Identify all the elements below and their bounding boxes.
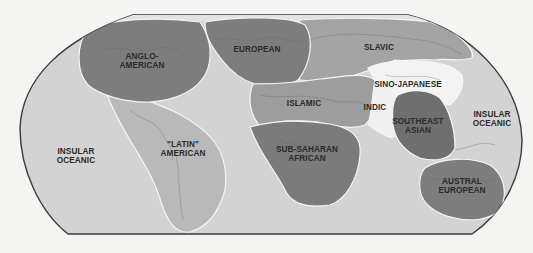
label-insular-oceanic-east: INSULAR xyxy=(473,110,510,119)
label-insular-oceanic-west: INSULAR xyxy=(57,147,94,156)
label-islamic: ISLAMIC xyxy=(287,99,321,108)
label-anglo-american-2: AMERICAN xyxy=(120,61,165,70)
label-anglo-american: ANGLO- xyxy=(126,52,159,61)
label-austral-european-2: EUROPEAN xyxy=(438,186,485,195)
label-sino-japanese: SINO-JAPANESE xyxy=(374,80,442,89)
label-austral-european: AUSTRAL xyxy=(442,177,482,186)
label-sub-saharan-african-2: AFRICAN xyxy=(288,154,326,163)
label-latin-american-2: AMERICAN xyxy=(161,149,206,158)
world-culture-realms-map: ANGLO- AMERICAN "LATIN" AMERICAN EUROPEA… xyxy=(0,0,533,253)
label-insular-oceanic-east-2: OCEANIC xyxy=(473,119,511,128)
label-slavic: SLAVIC xyxy=(364,43,394,52)
map-svg: ANGLO- AMERICAN "LATIN" AMERICAN EUROPEA… xyxy=(0,0,533,253)
label-southeast-asian: SOUTHEAST xyxy=(392,117,443,126)
label-southeast-asian-2: ASIAN xyxy=(405,126,431,135)
label-latin-american: "LATIN" xyxy=(167,140,199,149)
label-sub-saharan-african: SUB-SAHARAN xyxy=(276,145,338,154)
label-european: EUROPEAN xyxy=(233,45,280,54)
label-insular-oceanic-west-2: OCEANIC xyxy=(57,156,95,165)
label-indic: INDIC xyxy=(364,103,387,112)
